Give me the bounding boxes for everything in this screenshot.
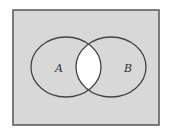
set-b-label: B [123, 62, 132, 75]
venn-diagram: A B [0, 0, 172, 138]
set-a-label: A [54, 62, 63, 75]
